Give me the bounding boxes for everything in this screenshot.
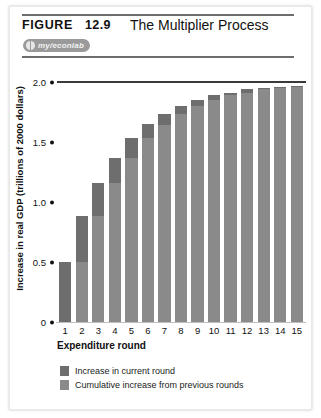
bar-segment-current [59,262,71,322]
bar-segment-cumulative [274,88,286,322]
myeconlab-badge[interactable]: my/econlab [23,39,90,52]
x-tick-label-10: 10 [209,325,220,336]
bar-round-15 [291,86,303,322]
legend-item-1: Increase in current round [60,366,244,376]
figure-title: The Multiplier Process [130,17,269,33]
x-tick-label-12: 12 [242,325,253,336]
bar-round-6 [142,124,154,322]
bar-round-7 [158,114,170,322]
bar-round-13 [258,88,270,322]
y-axis-ticks: 00.51.01.52.0 [18,82,54,322]
x-tick-label-1: 1 [63,325,68,336]
header-rule-bottom [22,56,294,58]
x-tick-label-11: 11 [226,325,236,336]
x-tick-label-15: 15 [291,325,302,336]
bar-segment-current [224,93,236,95]
bar-segment-cumulative [175,114,187,322]
x-tick-label-2: 2 [79,325,84,336]
bar-segment-current [92,183,104,217]
x-tick-label-7: 7 [162,325,167,336]
y-tick-label: 1.0 [33,197,46,208]
legend-item-2: Cumulative increase from previous rounds [60,380,244,390]
y-tick-0.5: 0.5 [33,257,54,268]
x-axis-title: Expenditure round [57,340,146,351]
bar-segment-current [175,106,187,114]
y-tick-dot [50,260,54,264]
x-tick-label-6: 6 [145,325,150,336]
y-tick-label: 0.5 [33,257,46,268]
x-tick-label-4: 4 [112,325,117,336]
bar-round-14 [274,87,286,322]
x-tick-label-5: 5 [129,325,134,336]
bar-round-10 [208,95,220,322]
figure-number: 12.9 [85,18,111,32]
bar-segment-current [241,89,253,93]
bar-segment-cumulative [241,93,253,322]
bar-round-1 [59,262,71,322]
y-tick-1.5: 1.5 [33,137,54,148]
figure-container: FIGURE 12.9 The Multiplier Process my/ec… [0,0,321,418]
globe-icon [26,41,35,50]
bar-round-12 [241,89,253,322]
badge-label: my/econlab [38,41,84,50]
x-tick-label-9: 9 [195,325,200,336]
bar-group [57,82,305,322]
figure-header: FIGURE 12.9 The Multiplier Process [22,18,298,38]
x-tick-label-8: 8 [178,325,183,336]
bar-segment-cumulative [158,125,170,322]
y-tick-dot [50,200,54,204]
bar-segment-cumulative [258,89,270,322]
plot-area [57,82,305,322]
bar-segment-current [258,88,270,89]
bar-segment-cumulative [224,95,236,322]
bar-segment-current [208,95,220,100]
bar-segment-current [291,86,303,87]
legend-label: Increase in current round [75,366,175,376]
x-axis-line [56,322,306,323]
figure-label: FIGURE [22,18,73,32]
bar-round-9 [191,100,203,322]
x-tick-label-3: 3 [96,325,101,336]
bar-round-8 [175,106,187,322]
x-tick-label-13: 13 [258,325,269,336]
bar-round-3 [92,183,104,322]
bar-segment-current [158,114,170,125]
bar-round-2 [76,216,88,322]
bar-segment-current [109,158,121,183]
bar-segment-current [191,100,203,106]
x-tick-label-14: 14 [275,325,286,336]
y-tick-label: 0 [41,317,46,328]
bar-segment-cumulative [92,216,104,322]
bar-segment-current [125,138,137,157]
bar-segment-cumulative [142,138,154,322]
y-tick-label: 1.5 [33,137,46,148]
chart-legend: Increase in current roundCumulative incr… [60,366,244,394]
bar-segment-cumulative [125,158,137,322]
x-axis-ticks: 123456789101112131415 [57,325,305,339]
bar-segment-cumulative [76,262,88,322]
bar-segment-cumulative [291,87,303,322]
legend-label: Cumulative increase from previous rounds [75,380,244,390]
bar-segment-current [76,216,88,262]
bar-segment-cumulative [109,183,121,322]
bar-segment-cumulative [191,106,203,322]
y-tick-2.0: 2.0 [33,77,54,88]
bar-round-11 [224,93,236,322]
bar-round-4 [109,158,121,322]
y-tick-dot [50,80,54,84]
y-tick-0: 0 [41,317,54,328]
legend-swatch-icon [60,366,69,376]
header-rule-top [22,14,294,16]
y-tick-label: 2.0 [33,77,46,88]
bar-segment-cumulative [208,100,220,322]
y-tick-1.0: 1.0 [33,197,54,208]
legend-swatch-icon [60,380,69,390]
y-tick-dot [50,320,54,324]
bar-segment-current [274,87,286,88]
bar-segment-current [142,124,154,138]
y-tick-dot [50,140,54,144]
bar-round-5 [125,138,137,322]
